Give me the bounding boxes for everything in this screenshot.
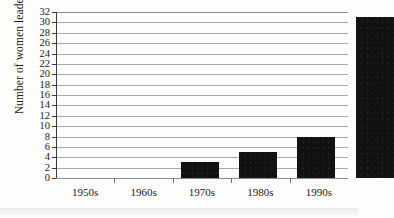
y-tick-label: 12 [26, 110, 50, 121]
y-tick-label: 10 [26, 120, 50, 131]
grid-line [56, 43, 348, 44]
plot-area [56, 12, 348, 178]
y-tick-mark [52, 168, 56, 169]
y-tick-label: 32 [26, 6, 50, 17]
y-tick-mark [52, 95, 56, 96]
x-axis-line [56, 178, 348, 179]
y-tick-mark [52, 33, 56, 34]
y-tick-mark [52, 126, 56, 127]
x-tick-mark [114, 178, 115, 183]
grid-line [56, 85, 348, 86]
grid-line [56, 95, 348, 96]
y-tick-mark [52, 137, 56, 138]
bar [297, 137, 335, 179]
y-tick-label: 6 [26, 141, 50, 152]
y-tick-mark [52, 116, 56, 117]
grid-line [56, 22, 348, 23]
y-axis-title: Number of women leaders [13, 0, 25, 127]
y-tick-label: 2 [26, 162, 50, 173]
grid-line [56, 54, 348, 55]
page-smudge [0, 208, 358, 218]
x-tick-label: 1990s [279, 186, 359, 198]
y-tick-label: 24 [26, 48, 50, 59]
y-tick-label: 4 [26, 151, 50, 162]
grid-line [56, 126, 348, 127]
y-tick-mark [52, 54, 56, 55]
y-tick-mark [52, 147, 56, 148]
y-tick-mark [52, 105, 56, 106]
bar [356, 17, 394, 178]
bar [239, 152, 277, 178]
grid-line [56, 64, 348, 65]
y-tick-mark [52, 157, 56, 158]
y-tick-label: 26 [26, 37, 50, 48]
x-tick-mark [173, 178, 174, 183]
grid-line [56, 33, 348, 34]
y-tick-label: 22 [26, 58, 50, 69]
y-tick-mark [52, 74, 56, 75]
y-tick-mark [52, 85, 56, 86]
y-tick-label: 20 [26, 68, 50, 79]
y-tick-label: 0 [26, 172, 50, 183]
grid-line [56, 105, 348, 106]
y-tick-label: 30 [26, 16, 50, 27]
grid-line [56, 12, 348, 13]
y-tick-mark [52, 12, 56, 13]
x-tick-mark [290, 178, 291, 183]
y-tick-label: 14 [26, 99, 50, 110]
grid-line [56, 116, 348, 117]
y-tick-mark [52, 178, 56, 179]
y-tick-mark [52, 22, 56, 23]
y-tick-mark [52, 43, 56, 44]
bar [181, 162, 219, 178]
y-tick-label: 28 [26, 27, 50, 38]
y-tick-label: 8 [26, 131, 50, 142]
grid-line [56, 74, 348, 75]
y-tick-label: 18 [26, 79, 50, 90]
y-axis-line [56, 12, 57, 179]
x-tick-mark [231, 178, 232, 183]
y-tick-mark [52, 64, 56, 65]
y-tick-label: 16 [26, 89, 50, 100]
